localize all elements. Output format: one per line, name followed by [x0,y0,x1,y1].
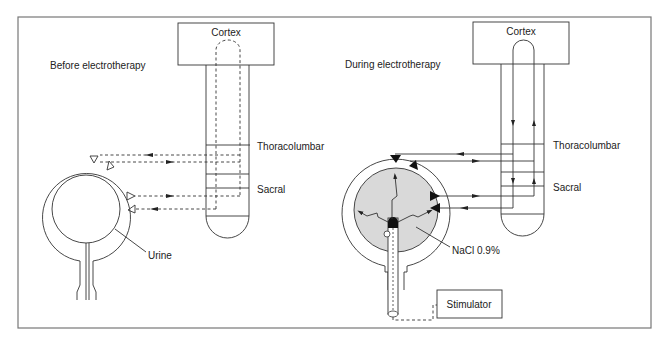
thoracolumbar-label-during: Thoracolumbar [553,140,621,151]
panel-title-before: Before electrotherapy [50,60,146,71]
electrode-catheter [384,217,398,317]
urine-label: Urine [148,250,172,261]
bladder-before: Urine [43,156,173,300]
cortex-box-during: Cortex [473,22,569,64]
cortex-label-before: Cortex [211,27,240,38]
catheter-eye-icon [384,231,390,237]
sacral-label-before: Sacral [257,184,285,195]
cortex-label-during: Cortex [506,26,535,37]
nacl-label: NaCl 0.9% [452,245,500,256]
spinal-cord-before: Thoracolumbar Sacral [206,65,325,238]
panel-title-during: During electrotherapy [345,59,441,70]
sacral-label-during: Sacral [553,182,581,193]
stimulator: Stimulator [393,290,502,320]
electrotherapy-diagram: Before electrotherapy Cortex Thoracolumb… [0,0,667,342]
thoracolumbar-label-before: Thoracolumbar [257,141,325,152]
spinal-cord-during: Thoracolumbar Sacral [501,64,621,236]
receptor-icon [127,192,135,200]
receptor-icon [90,156,98,163]
bladder-during: NaCl 0.9% [342,155,500,317]
electrode-tip-icon [388,217,398,228]
panel-before: Before electrotherapy Cortex Thoracolumb… [43,23,325,300]
cortex-box-before: Cortex [178,23,274,65]
panel-during: During electrotherapy Cortex Thoracolumb… [342,22,621,320]
stimulator-label: Stimulator [446,299,492,310]
